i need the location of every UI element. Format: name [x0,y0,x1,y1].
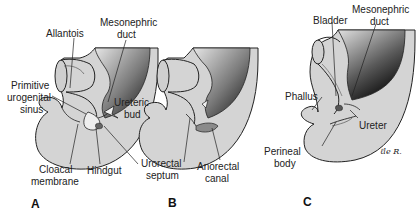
figure-embryo-cloaca-partition: Allantois Mesonephric duct Primitive uro… [0,0,420,213]
label-primitive-urogenital-sinus-line3: sinus [20,104,43,115]
label-perineal-body-line1: Perineal [264,146,301,157]
panel-letter-c: C [303,195,312,209]
label-phallus: Phallus [285,91,318,102]
label-cloacal-membrane-line1: Cloacal [39,164,72,175]
label-ureter: Ureter [359,120,387,131]
panel-c-embryo [301,30,415,162]
label-primitive-urogenital-sinus-line1: Primitive [11,80,49,91]
panel-letter-b: B [168,196,177,210]
label-bladder: Bladder [313,15,347,26]
label-primitive-urogenital-sinus-line2: urogenital [7,92,51,103]
label-mesonephric-duct-c-line1: Mesonephric [352,4,409,15]
label-ureteric-bud-line1: Ureteric [114,97,149,108]
label-anorectal-canal-line1: Anorectal [197,161,239,172]
label-mesonephric-duct-c-line2: duct [370,16,389,27]
label-mesonephric-duct-a-line1: Mesonephric [100,17,157,28]
label-perineal-body-line2: body [274,158,296,169]
label-cloacal-membrane-line2: membrane [31,176,79,187]
panel-letter-a: A [31,197,40,211]
label-allantois: Allantois [46,28,84,39]
artist-signature: ℓle R. [380,146,402,157]
label-hindgut: Hindgut [87,165,121,176]
label-urorectal-septum-line1: Urorectal [141,158,182,169]
label-urorectal-septum-line2: septum [146,170,179,181]
label-anorectal-canal-line2: canal [205,173,229,184]
label-ureteric-bud-line2: bud [124,109,141,120]
label-mesonephric-duct-a-line2: duct [117,29,136,40]
